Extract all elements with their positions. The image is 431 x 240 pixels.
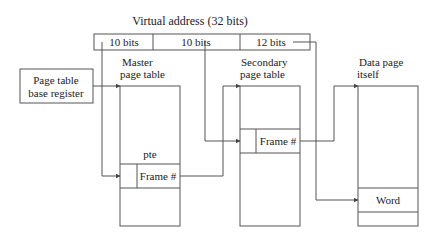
address-field-dir: 10 bits <box>109 36 139 48</box>
secondary-page-table: Frame # <box>240 86 300 226</box>
master-table-label-2: page table <box>120 68 165 80</box>
arrow-index1-to-pte <box>102 42 120 176</box>
two-level-page-table-diagram: Virtual address (32 bits) 10 bits 10 bit… <box>0 0 431 240</box>
data-page-label-2: itself <box>357 68 379 80</box>
svg-text:Page table: Page table <box>33 74 79 86</box>
arrow-secondary-frame-to-data <box>300 86 358 141</box>
address-field-offset: 12 bits <box>256 36 286 48</box>
arrow-offset-to-word <box>293 42 358 200</box>
data-page-label: Data page <box>359 56 403 68</box>
pte-label: pte <box>143 148 157 160</box>
secondary-frame-entry: Frame # <box>260 135 297 147</box>
arrow-master-frame-to-secondary <box>180 86 240 176</box>
secondary-table-label: Secondary <box>241 56 288 68</box>
word-entry: Word <box>376 194 401 206</box>
master-page-table: pte Frame # <box>120 86 180 226</box>
virtual-address-title: Virtual address (32 bits) <box>132 14 248 28</box>
master-table-label: Master <box>122 56 153 68</box>
virtual-address-bar: 10 bits 10 bits 12 bits <box>94 34 310 50</box>
page-table-base-register: Page table base register <box>20 69 93 103</box>
secondary-table-label-2: page table <box>240 68 285 80</box>
svg-text:base register: base register <box>28 87 84 99</box>
master-frame-entry: Frame # <box>140 170 177 182</box>
address-field-table: 10 bits <box>181 36 211 48</box>
data-page: Word <box>358 86 418 226</box>
